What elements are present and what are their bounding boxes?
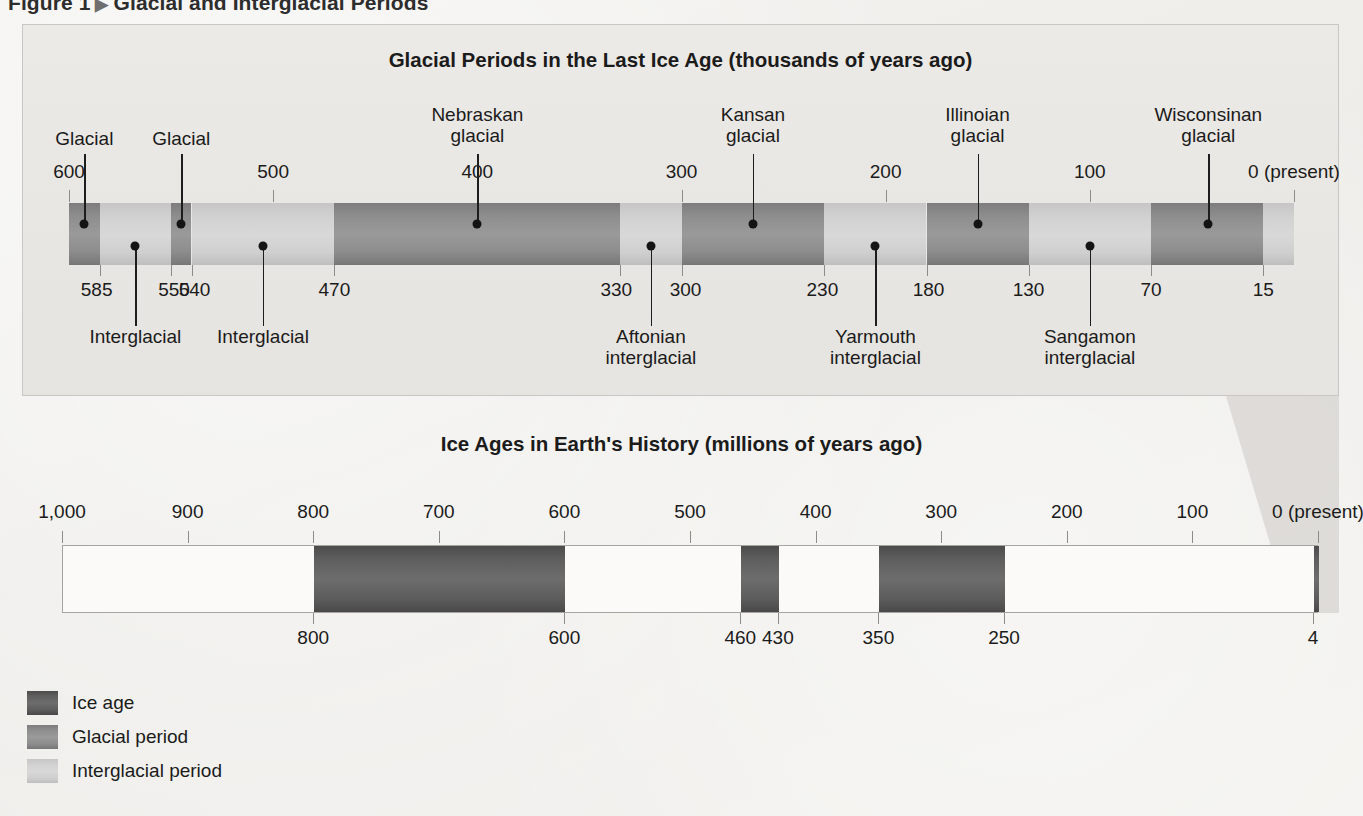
tick-above-100: [1090, 190, 1091, 202]
figure-arrow-icon: ▶: [90, 0, 113, 14]
bottom-tick-above-700: [439, 531, 440, 543]
tick-above-600: [69, 190, 70, 202]
bottom-axis-label-below-4: 4: [1308, 627, 1319, 649]
callout-below-interglacial: Interglacial: [89, 326, 181, 347]
top-timeline-bar: [69, 203, 1294, 265]
bottom-axis-label-above-700: 700: [423, 501, 455, 523]
callout-leader-below-2: [651, 246, 653, 326]
ice-age-block-800-600: [314, 546, 565, 612]
bottom-tick-below-350: [878, 613, 879, 624]
bottom-axis-label-above-200: 200: [1051, 501, 1083, 523]
axis-label-below-330: 330: [600, 279, 632, 301]
callout-dot-below-0: [131, 242, 140, 251]
bottom-tick-above-100: [1192, 531, 1193, 543]
bottom-axis-label-below-350: 350: [863, 627, 895, 649]
axis-label-below-585: 585: [81, 279, 113, 301]
ice-age-block-4-0: [1314, 546, 1319, 612]
legend-item-glacial-period: Glacial period: [27, 722, 222, 752]
axis-label-below-230: 230: [807, 279, 839, 301]
callout-dot-above-5: [1204, 220, 1213, 229]
tick-above-200: [886, 190, 887, 202]
axis-label-below-70: 70: [1141, 279, 1162, 301]
bottom-axis-label-above-500: 500: [674, 501, 706, 523]
callout-dot-above-1: [177, 220, 186, 229]
ice-age-block-350-250: [879, 546, 1005, 612]
axis-label-below-300: 300: [670, 279, 702, 301]
bottom-tick-below-4: [1313, 613, 1314, 624]
figure-page: Figure 1▶Glacial and Interglacial Period…: [0, 0, 1363, 816]
bottom-axis-label-below-430: 430: [762, 627, 794, 649]
ice-age-block-460-430: [741, 546, 779, 612]
tick-below-585: [100, 265, 101, 276]
tick-below-15: [1263, 265, 1264, 276]
legend-item-ice-age: Ice age: [27, 688, 222, 718]
top-panel-title: Glacial Periods in the Last Ice Age (tho…: [23, 48, 1338, 72]
bottom-axis-label-above-100: 100: [1177, 501, 1209, 523]
bottom-tick-above-300: [941, 531, 942, 543]
bottom-axis-label-above-600: 600: [549, 501, 581, 523]
axis-label-below-470: 470: [319, 279, 351, 301]
callout-leader-above-1: [181, 154, 183, 224]
callout-above-glacial: Glacial: [55, 128, 113, 149]
callout-above-nebraskan-glacial: Nebraskanglacial: [431, 104, 523, 147]
callout-leader-above-0: [84, 154, 86, 224]
callout-dot-above-3: [748, 220, 757, 229]
callout-leader-below-0: [135, 246, 137, 326]
bottom-axis-label-above-300: 300: [925, 501, 957, 523]
legend-label-2: Interglacial period: [72, 760, 222, 782]
bottom-axis-label-above-0: 0 (present): [1272, 501, 1363, 523]
tick-below-130: [1029, 265, 1030, 276]
tick-below-550: [171, 265, 172, 276]
axis-label-below-540: 540: [179, 279, 211, 301]
legend-label-1: Glacial period: [72, 726, 188, 748]
axis-label-above-600: 600: [53, 161, 85, 183]
bottom-panel-title: Ice Ages in Earth's History (millions of…: [0, 432, 1363, 456]
callout-above-kansan-glacial: Kansanglacial: [721, 104, 785, 147]
bottom-axis-label-above-800: 800: [297, 501, 329, 523]
legend-label-0: Ice age: [72, 692, 134, 714]
bottom-tick-above-600: [564, 531, 565, 543]
callout-dot-below-3: [871, 242, 880, 251]
bottom-tick-above-900: [188, 531, 189, 543]
callout-leader-below-3: [875, 246, 877, 326]
legend-item-interglacial-period: Interglacial period: [27, 756, 222, 786]
bottom-axis-label-below-460: 460: [724, 627, 756, 649]
callout-below-yarmouth-interglacial: Yarmouthinterglacial: [830, 326, 921, 369]
tick-below-300: [682, 265, 683, 276]
callout-above-illinoian-glacial: Illinoianglacial: [945, 104, 1009, 147]
timeline-segment-end-11: [1263, 203, 1294, 265]
bottom-axis-label-above-400: 400: [800, 501, 832, 523]
tick-below-470: [334, 265, 335, 276]
callout-above-glacial: Glacial: [152, 128, 210, 149]
callout-leader-below-4: [1090, 246, 1092, 326]
bottom-tick-above-400: [816, 531, 817, 543]
tick-above-500: [273, 190, 274, 202]
callout-dot-below-2: [646, 242, 655, 251]
bottom-tick-below-800: [313, 613, 314, 624]
timeline-segment-wisconsinan-glacial: [1151, 203, 1263, 265]
tick-below-180: [927, 265, 928, 276]
bottom-timeline-frame: [62, 545, 1318, 613]
callout-leader-above-3: [753, 154, 755, 224]
legend-swatch-2: [27, 759, 58, 783]
callout-leader-above-4: [978, 154, 980, 224]
tick-above-0: [1294, 190, 1295, 202]
axis-label-above-500: 500: [257, 161, 289, 183]
axis-label-below-130: 130: [1013, 279, 1045, 301]
tick-below-70: [1151, 265, 1152, 276]
legend-swatch-0: [27, 691, 58, 715]
bottom-tick-below-430: [778, 613, 779, 624]
tick-below-540: [192, 265, 193, 276]
callout-dot-below-1: [258, 242, 267, 251]
bottom-tick-above-200: [1067, 531, 1068, 543]
callout-dot-below-4: [1085, 242, 1094, 251]
callout-below-interglacial: Interglacial: [217, 326, 309, 347]
figure-caption-text: Glacial and Interglacial Periods: [114, 0, 429, 14]
bottom-axis-label-below-800: 800: [297, 627, 329, 649]
tick-above-300: [682, 190, 683, 202]
figure-number: Figure 1: [8, 0, 90, 14]
bottom-tick-above-0: [1318, 531, 1319, 543]
bottom-tick-above-1000: [62, 531, 63, 543]
legend: Ice ageGlacial periodInterglacial period: [27, 688, 222, 790]
callout-below-sangamon-interglacial: Sangamoninterglacial: [1044, 326, 1136, 369]
